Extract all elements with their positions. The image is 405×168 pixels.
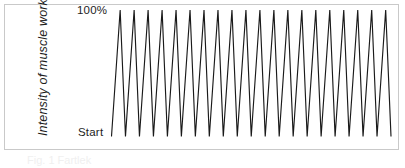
waveform-polyline: [112, 10, 392, 137]
figure-caption: Fig. 1 Fartlek: [27, 154, 91, 166]
sawtooth-waveform: [0, 0, 405, 150]
figure-caption-clip: Fig. 1 Fartlek: [0, 152, 405, 168]
plot-area: [0, 0, 405, 150]
figure-container: Intensity of muscle work 100% Start Fig.…: [0, 0, 405, 168]
